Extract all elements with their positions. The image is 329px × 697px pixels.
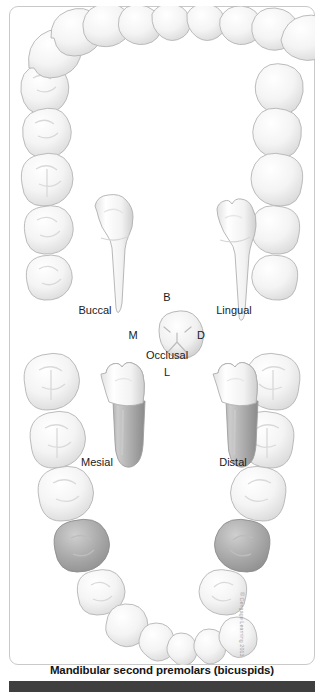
tooth-detail-views — [9, 6, 315, 665]
buccal-view — [95, 195, 133, 313]
orientation-letter-buccal: B — [147, 291, 187, 303]
label-occlusal: Occlusal — [132, 349, 202, 361]
orientation-letter-mesial: M — [121, 329, 145, 341]
figure-caption: Mandibular second premolars (bicuspids) — [9, 664, 315, 682]
orientation-letter-lingual: L — [147, 366, 187, 378]
label-lingual: Lingual — [199, 304, 269, 316]
caption-bar — [9, 681, 315, 692]
label-buccal: Buccal — [60, 304, 130, 316]
distal-view — [213, 363, 258, 468]
mesial-view — [101, 363, 145, 468]
copyright-notice: © Cengage Learning 2013 — [239, 592, 245, 678]
lingual-view — [217, 199, 256, 320]
dental-anatomy-figure: Buccal Lingual Occlusal Mesial Distal B … — [0, 0, 329, 697]
orientation-letter-distal: D — [189, 329, 213, 341]
label-distal: Distal — [198, 456, 268, 468]
label-mesial: Mesial — [62, 456, 132, 468]
